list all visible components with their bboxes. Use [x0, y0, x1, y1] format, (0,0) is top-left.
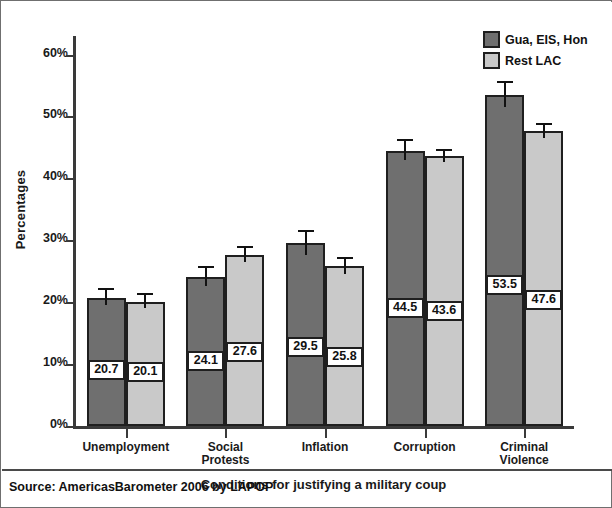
chart-frame: Percentages 0%10%20%30%40%50%60% 20.720.… — [0, 0, 612, 508]
y-tick-label: 60% — [43, 46, 68, 60]
error-bar — [504, 83, 506, 107]
dark-gray-swatch-icon — [483, 31, 500, 48]
bar-group: 24.127.6 — [186, 36, 264, 426]
bar-light — [425, 156, 464, 426]
bar-dark — [286, 243, 325, 426]
error-bar — [543, 125, 545, 137]
error-bar — [344, 259, 346, 274]
legend-item-series-0: Gua, EIS, Hon — [483, 30, 588, 49]
x-tick-mark — [126, 429, 128, 438]
x-tick-mark — [524, 429, 526, 438]
y-axis-title: Percentages — [13, 100, 28, 320]
bar-dark — [485, 95, 524, 426]
chart-panel: Percentages 0%10%20%30%40%50%60% 20.720.… — [2, 2, 612, 471]
legend-label-series-1: Rest LAC — [505, 54, 561, 68]
error-bar-cap-top — [397, 139, 413, 141]
x-category-label: Corruption — [375, 441, 475, 454]
error-bar — [105, 290, 107, 305]
bar-value-label: 20.1 — [127, 362, 164, 382]
bar-value-label: 29.5 — [287, 337, 324, 357]
bar-value-label: 47.6 — [525, 290, 562, 310]
error-bar — [404, 141, 406, 161]
bar-value-label: 43.6 — [426, 301, 463, 321]
legend-item-series-1: Rest LAC — [483, 51, 588, 70]
error-bar-cap-top — [298, 230, 314, 232]
light-gray-swatch-icon — [483, 52, 500, 69]
y-tick: 20% — [2, 302, 80, 303]
y-tick-label: 40% — [43, 169, 68, 183]
error-bar-cap-top — [137, 293, 153, 295]
error-bar-cap-top — [436, 149, 452, 151]
source-note: Source: AmericasBarometer 2006 by LAPOP — [9, 480, 273, 494]
error-bar — [205, 268, 207, 287]
y-tick: 40% — [2, 178, 80, 179]
chart-legend: Gua, EIS, Hon Rest LAC — [483, 30, 588, 72]
bar-group: 29.525.8 — [286, 36, 364, 426]
error-bar — [305, 232, 307, 256]
bar-dark — [386, 151, 425, 426]
y-tick-label: 0% — [50, 417, 68, 431]
x-category-label: Unemployment — [76, 441, 176, 454]
error-bar — [144, 295, 146, 307]
error-bar — [443, 151, 445, 162]
error-bar-cap-top — [497, 81, 513, 83]
y-tick: 10% — [2, 364, 80, 365]
error-bar-cap-top — [337, 257, 353, 259]
x-axis-line — [73, 426, 574, 429]
x-tick-mark — [225, 429, 227, 438]
y-tick-label: 10% — [43, 355, 68, 369]
y-tick: 50% — [2, 116, 80, 117]
x-tick-mark — [425, 429, 427, 438]
legend-label-series-0: Gua, EIS, Hon — [505, 33, 588, 47]
bar-value-label: 27.6 — [226, 342, 263, 362]
bar-light — [225, 255, 264, 426]
plot-area: 20.720.124.127.629.525.844.543.653.547.6 — [76, 36, 574, 426]
x-tick-mark — [325, 429, 327, 438]
y-tick: 60% — [2, 55, 80, 56]
bar-value-label: 44.5 — [387, 298, 424, 318]
y-tick: 30% — [2, 240, 80, 241]
error-bar-cap-top — [98, 288, 114, 290]
y-tick-label: 50% — [43, 107, 68, 121]
x-category-label: Social Protests — [176, 441, 276, 467]
y-tick: 0% — [2, 426, 80, 427]
x-category-label: Inflation — [275, 441, 375, 454]
bar-value-label: 25.8 — [326, 347, 363, 367]
bar-group: 44.543.6 — [386, 36, 464, 426]
error-bar-cap-top — [198, 266, 214, 268]
error-bar-cap-top — [237, 246, 253, 248]
x-category-label: Criminal Violence — [474, 441, 574, 467]
y-tick-label: 30% — [43, 231, 68, 245]
bar-value-label: 53.5 — [486, 275, 523, 295]
error-bar — [244, 248, 246, 262]
error-bar-cap-top — [536, 123, 552, 125]
bar-value-label: 24.1 — [187, 351, 224, 371]
bar-light — [524, 131, 563, 426]
y-tick-label: 20% — [43, 293, 68, 307]
bar-group: 53.547.6 — [485, 36, 563, 426]
bar-value-label: 20.7 — [88, 360, 125, 380]
bar-group: 20.720.1 — [87, 36, 165, 426]
